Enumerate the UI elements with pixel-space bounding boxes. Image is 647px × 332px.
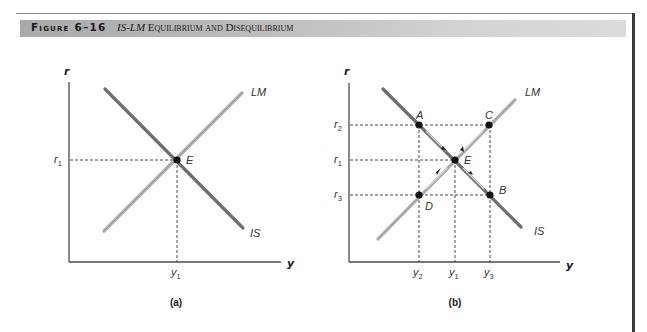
panel-b-point-e [451,156,458,163]
panel-b-caption: (b) [449,297,462,308]
panel-b-point-a-label: A [415,109,423,121]
panel-b-y2-label: y2 [412,266,423,281]
panel-b-point-a [415,121,422,128]
panel-a-point-e [173,156,180,163]
panel-b: r y LM IS A B C [334,65,574,308]
panel-b-r3-label: r3 [334,188,342,203]
panel-b-is-curve [383,89,521,227]
panel-b-y-axis-label: r [344,65,350,78]
panel-a-caption: (a) [170,297,182,308]
panel-b-point-d [415,191,422,198]
panel-b-is-label: IS [534,225,545,237]
panel-b-point-b-label: B [499,184,506,196]
panel-a-lm-label: LM [251,86,267,98]
panel-b-r2-label: r2 [334,118,342,133]
panel-b-point-c-label: C [485,109,493,121]
panel-a-x-axis-label: y [287,257,295,270]
panel-b-r1-label: r1 [334,153,342,168]
panel-b-y1-label: y1 [448,266,459,281]
panel-a-is-label: IS [250,227,261,239]
panel-a-r1-label: r1 [54,153,62,168]
panel-b-point-d-label: D [425,200,433,212]
panel-a-y-axis-label: r [64,65,70,78]
panel-a-lm-curve [104,93,242,231]
panel-b-point-e-label: E [464,154,472,166]
panel-b-lm-label: LM [525,86,541,98]
panel-a-y1-label: y1 [170,266,181,281]
panel-b-x-axis-label: y [566,259,574,272]
panel-b-y3-label: y3 [483,266,494,281]
panel-b-point-b [486,191,493,198]
panel-a: r y LM IS E r1 y1 (a) [54,65,295,308]
panel-a-point-e-label: E [186,154,194,166]
panel-b-point-c [485,121,492,128]
